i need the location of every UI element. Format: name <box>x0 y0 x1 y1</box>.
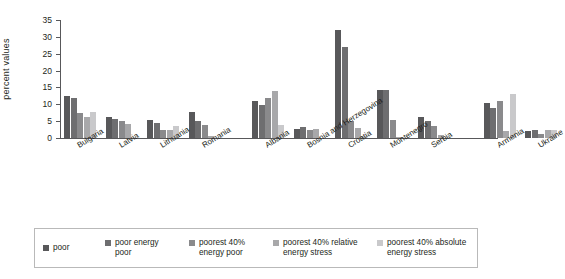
bar <box>195 121 201 138</box>
x-axis-label: Ukraine <box>537 128 565 149</box>
bar <box>525 131 531 138</box>
bar <box>294 129 300 138</box>
y-axis-tick <box>56 54 60 55</box>
y-axis-tick <box>56 87 60 88</box>
legend-label: poor <box>53 243 69 253</box>
y-axis-tick <box>56 37 60 38</box>
bar <box>272 91 278 138</box>
legend-swatch-icon <box>377 240 383 246</box>
chart-legend: poorpoor energy poorpoorest 40% energy p… <box>34 228 478 268</box>
bar <box>383 90 389 138</box>
y-axis-tick-label: 20 <box>30 66 52 75</box>
bar <box>497 101 503 138</box>
bar <box>300 127 306 138</box>
bar <box>252 101 258 138</box>
bar <box>112 119 118 138</box>
bar <box>202 125 208 138</box>
bar <box>77 113 83 138</box>
y-axis-tick-label: 0 <box>30 134 52 143</box>
bar <box>147 120 153 138</box>
legend-label: poor energy poor <box>115 238 159 258</box>
y-axis-tick-label: 30 <box>30 33 52 42</box>
bar <box>71 98 77 138</box>
bar <box>154 123 160 139</box>
bar <box>431 126 437 138</box>
legend-swatch-icon <box>273 240 279 246</box>
legend-label: poorest 40% absolute energy stress <box>387 238 466 258</box>
bar <box>390 120 396 138</box>
bar <box>106 117 112 138</box>
legend-label: poorest 40% energy poor <box>199 238 245 258</box>
bar <box>119 121 125 138</box>
legend-item[interactable]: poorest 40% absolute energy stress <box>377 238 477 258</box>
bar <box>259 105 265 138</box>
bar <box>490 108 496 138</box>
legend-swatch-icon <box>105 240 111 246</box>
y-axis-tick-label: 10 <box>30 100 52 109</box>
legend-swatch-icon <box>43 245 49 251</box>
bar <box>189 112 195 138</box>
legend-label: poorest 40% relative energy stress <box>283 238 358 258</box>
y-axis-tick-label: 15 <box>30 83 52 92</box>
bar <box>532 130 538 138</box>
y-axis-tick-label: 5 <box>30 117 52 126</box>
y-axis-tick <box>56 121 60 122</box>
legend-item[interactable]: poorest 40% relative energy stress <box>273 238 377 258</box>
bar <box>64 96 70 138</box>
legend-item[interactable]: poor <box>43 243 105 253</box>
y-axis-title: percent values <box>1 38 11 99</box>
y-axis-tick <box>56 138 60 139</box>
bar <box>484 103 490 138</box>
y-axis-tick <box>56 104 60 105</box>
legend-item[interactable]: poor energy poor <box>105 238 189 258</box>
legend-swatch-icon <box>189 240 195 246</box>
y-axis-tick-label: 35 <box>30 16 52 25</box>
y-axis-tick <box>56 71 60 72</box>
bar <box>265 98 271 138</box>
y-axis-tick-label: 25 <box>30 49 52 58</box>
legend-item[interactable]: poorest 40% energy poor <box>189 238 273 258</box>
y-axis-tick <box>56 20 60 21</box>
plot-area <box>60 20 498 138</box>
